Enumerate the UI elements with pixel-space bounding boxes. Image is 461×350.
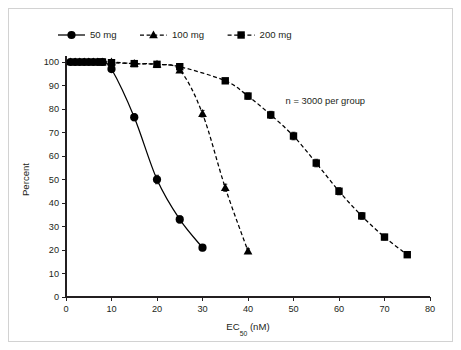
x-tick-label: 20 (152, 304, 162, 314)
series-200-mg (99, 58, 411, 258)
y-tick-label: 10 (49, 269, 59, 279)
data-point-square (176, 63, 183, 70)
y-tick-label: 100 (44, 57, 59, 67)
legend-item-200-mg[interactable]: 200 mg (228, 29, 292, 40)
data-point-square (237, 31, 244, 38)
data-point-circle (153, 175, 161, 183)
y-axis-title: Percent (20, 163, 31, 196)
chart-annotation: n = 3000 per group (286, 95, 366, 106)
data-point-circle (198, 244, 206, 252)
series-line (102, 62, 407, 255)
legend-item-50-mg[interactable]: 50 mg (58, 29, 117, 40)
data-point-triangle (149, 30, 158, 38)
y-tick-label: 60 (49, 151, 59, 161)
data-point-square (335, 188, 342, 195)
data-point-triangle (221, 183, 230, 191)
data-point-square (108, 59, 115, 66)
y-tick-label: 30 (49, 222, 59, 232)
data-point-circle (130, 113, 138, 121)
data-point-circle (176, 215, 184, 223)
data-point-square (404, 251, 411, 258)
x-tick-label: 30 (197, 304, 207, 314)
data-point-square (244, 92, 251, 99)
data-point-square (99, 58, 106, 65)
series-100-mg (66, 57, 252, 254)
data-point-square (358, 212, 365, 219)
y-tick-label: 90 (49, 81, 59, 91)
y-tick-label: 20 (49, 245, 59, 255)
data-point-circle (67, 31, 75, 39)
x-tick-label: 70 (379, 304, 389, 314)
y-tick-label: 80 (49, 104, 59, 114)
sample-size-annotation: n = 3000 per group (286, 95, 366, 106)
data-point-square (153, 61, 160, 68)
chart-legend: 50 mg100 mg200 mg (58, 29, 292, 40)
y-tick-label: 40 (49, 198, 59, 208)
legend-label: 50 mg (90, 29, 117, 40)
data-point-square (381, 233, 388, 240)
data-point-square (290, 132, 297, 139)
ec50-dose-response-chart: 50 mg100 mg200 mg 0102030405060708090100… (0, 0, 461, 350)
x-tick-label: 0 (63, 304, 68, 314)
series-50-mg (66, 58, 206, 252)
data-point-square (313, 159, 320, 166)
series-line (71, 62, 248, 251)
x-tick-label: 80 (425, 304, 435, 314)
x-tick-label: 10 (106, 304, 116, 314)
chart-series (66, 57, 411, 258)
figure-root: 50 mg100 mg200 mg 0102030405060708090100… (0, 0, 461, 350)
x-axis-title: EC50 (nM) (226, 321, 269, 337)
x-tick-label: 50 (288, 304, 298, 314)
legend-item-100-mg[interactable]: 100 mg (140, 29, 204, 40)
y-tick-label: 0 (54, 292, 59, 302)
data-point-triangle (244, 247, 253, 255)
legend-label: 200 mg (260, 29, 292, 40)
x-tick-label: 60 (334, 304, 344, 314)
y-tick-label: 50 (49, 175, 59, 185)
data-point-square (222, 77, 229, 84)
data-point-triangle (198, 109, 207, 117)
legend-label: 100 mg (172, 29, 204, 40)
y-tick-label: 70 (49, 128, 59, 138)
data-point-square (131, 60, 138, 67)
data-point-square (267, 111, 274, 118)
chart-axes: 010203040506070809010001020304050607080 (44, 56, 435, 314)
x-tick-label: 40 (243, 304, 253, 314)
